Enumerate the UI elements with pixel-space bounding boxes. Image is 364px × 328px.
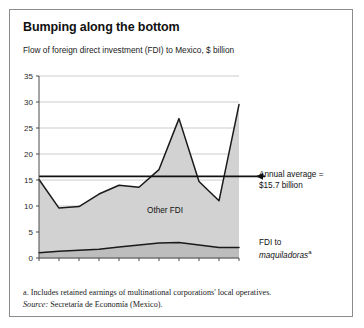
svg-text:2004: 2004 (230, 265, 248, 267)
source-text: Secretaría de Economía (Mexico). (50, 300, 162, 309)
annual-average-annotation: Annual average = $15.7 billion (259, 170, 323, 191)
maquiladoras-footnote-marker: a (308, 249, 311, 255)
maquiladoras-line2: maquiladorasa (259, 249, 312, 261)
svg-text:1998: 1998 (110, 265, 128, 267)
chart-plot-area: 05101520253035 199419961998200020022004 … (10, 62, 354, 267)
footnote-source: Source: Secretaría de Economía (Mexico). (23, 299, 343, 311)
chart-card: Bumping along the bottom Flow of foreign… (9, 9, 353, 317)
svg-text:30: 30 (24, 98, 33, 107)
svg-text:25: 25 (24, 124, 33, 133)
chart-subtitle: Flow of foreign direct investment (FDI) … (23, 45, 234, 55)
svg-text:2000: 2000 (150, 265, 168, 267)
svg-text:1994: 1994 (30, 265, 48, 267)
svg-text:Other FDI: Other FDI (147, 206, 183, 215)
x-axis-tick-labels: 199419961998200020022004 (30, 265, 248, 267)
chart-svg: 05101520253035 199419961998200020022004 … (10, 62, 354, 267)
chart-title: Bumping along the bottom (23, 20, 180, 34)
maquiladoras-line1: FDI to (259, 238, 312, 249)
area-other-fdi (39, 105, 239, 258)
svg-text:2002: 2002 (190, 265, 208, 267)
svg-text:35: 35 (24, 72, 33, 81)
maquiladoras-annotation: FDI to maquiladorasa (259, 238, 312, 261)
svg-text:15: 15 (24, 176, 33, 185)
svg-text:1996: 1996 (70, 265, 88, 267)
svg-text:5: 5 (29, 228, 34, 237)
source-label: Source: (23, 300, 48, 309)
svg-text:20: 20 (24, 150, 33, 159)
footnote-a: a. Includes retained earnings of multina… (23, 287, 343, 299)
footnotes: a. Includes retained earnings of multina… (23, 287, 343, 310)
other-fdi-label: Other FDI (147, 206, 183, 215)
svg-text:10: 10 (24, 202, 33, 211)
y-axis-tick-labels: 05101520253035 (24, 72, 33, 263)
maquiladoras-term: maquiladoras (259, 250, 308, 259)
svg-text:0: 0 (29, 254, 34, 263)
annual-average-line2: $15.7 billion (259, 181, 323, 192)
annual-average-line1: Annual average = (259, 170, 323, 181)
